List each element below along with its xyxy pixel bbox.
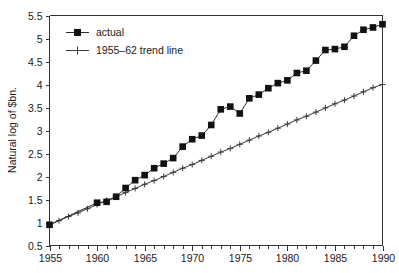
y-tick-label: 4: [37, 79, 43, 91]
y-tick-label: 5.5: [28, 10, 43, 22]
actual-data-point: [132, 177, 139, 184]
y-tick-label: 1.5: [28, 194, 43, 206]
actual-data-point: [160, 160, 167, 167]
trend-data-point: [237, 141, 243, 147]
trend-data-point: [199, 157, 205, 163]
actual-data-point: [170, 155, 177, 162]
trend-data-point: [284, 121, 290, 127]
trend-data-point: [351, 93, 357, 99]
y-tick-label: 3: [37, 125, 43, 137]
trend-data-point: [360, 89, 366, 95]
actual-data-point: [122, 185, 129, 192]
chart-figure: 0.511.522.533.544.555.5 1955196019651970…: [0, 0, 399, 273]
trend-data-point: [170, 169, 176, 175]
legend-label-trend: 1955–62 trend line: [96, 44, 183, 56]
actual-data-point: [198, 132, 205, 139]
actual-data-point: [351, 32, 358, 39]
x-tick-label: 1970: [181, 252, 205, 264]
y-tick-label: 4.5: [28, 56, 43, 68]
actual-data-point: [265, 85, 272, 92]
trend-data-point: [380, 82, 386, 88]
actual-data-point: [341, 43, 348, 50]
trend-data-point: [256, 133, 262, 139]
y-axis-title: Natural log of $bn.: [6, 87, 18, 173]
trend-data-point: [370, 85, 376, 91]
legend-marker-square-icon: [74, 29, 81, 36]
actual-data-point: [227, 103, 234, 110]
trend-data-point: [132, 185, 138, 191]
trend-data-point: [294, 117, 300, 123]
trend-data-point: [218, 149, 224, 155]
trend-data-point: [313, 109, 319, 115]
chart-legend: actual 1955–62 trend line: [66, 26, 183, 56]
trend-data-point: [161, 174, 167, 180]
actual-data-point: [179, 143, 186, 150]
legend-entry-actual: actual: [66, 26, 124, 38]
x-tick-label: 1985: [324, 252, 348, 264]
x-tick-label: 1955: [39, 252, 63, 264]
x-tick-label: 1960: [86, 252, 110, 264]
actual-data-point: [246, 95, 253, 102]
trend-data-point: [142, 181, 148, 187]
trend-data-point: [208, 153, 214, 159]
trend-data-point: [322, 105, 328, 111]
legend-entry-trend: 1955–62 trend line: [66, 44, 183, 56]
actual-data-point: [303, 67, 310, 74]
x-axis-ticks: 19551960196519701975198019851990: [39, 246, 396, 264]
x-tick-label: 1990: [372, 252, 396, 264]
actual-data-point: [217, 106, 224, 113]
actual-data-point: [141, 172, 148, 179]
legend-marker-plus-icon: [74, 47, 82, 55]
x-tick-label: 1980: [276, 252, 300, 264]
trend-data-point: [303, 113, 309, 119]
trend-data-point: [275, 125, 281, 131]
y-tick-label: 3.5: [28, 102, 43, 114]
y-tick-label: 0.5: [28, 240, 43, 252]
actual-data-point: [294, 70, 301, 77]
actual-data-point: [284, 77, 291, 84]
actual-data-point: [113, 193, 120, 200]
actual-data-point: [256, 91, 263, 98]
trend-data-point: [151, 178, 157, 184]
y-tick-label: 5: [37, 33, 43, 45]
trend-data-point: [341, 97, 347, 103]
y-tick-label: 2: [37, 171, 43, 183]
actual-data-point: [103, 199, 110, 206]
actual-data-point: [370, 24, 377, 31]
actual-data-point: [236, 110, 243, 117]
actual-data-point: [332, 46, 339, 53]
y-tick-label: 1: [37, 217, 43, 229]
actual-data-point: [360, 26, 367, 33]
trend-data-point: [265, 129, 271, 135]
trend-data-point: [246, 137, 252, 143]
actual-data-point: [94, 199, 101, 206]
actual-data-point: [46, 222, 53, 229]
trend-data-point: [180, 165, 186, 171]
actual-data-point: [322, 47, 329, 54]
x-tick-label: 1975: [229, 252, 253, 264]
actual-data-point: [208, 122, 215, 129]
trend-data-point: [227, 145, 233, 151]
x-tick-label: 1965: [134, 252, 158, 264]
legend-label-actual: actual: [96, 26, 124, 38]
actual-data-point: [275, 80, 282, 87]
trend-data-point: [189, 162, 195, 168]
y-axis-ticks: 0.511.522.533.544.555.5: [28, 10, 50, 252]
actual-data-point: [379, 21, 386, 28]
actual-data-point: [189, 136, 196, 143]
y-tick-label: 2.5: [28, 148, 43, 160]
actual-data-point: [151, 165, 158, 172]
actual-data-point: [313, 57, 320, 64]
trend-data-point: [332, 101, 338, 107]
chart-svg: 0.511.522.533.544.555.5 1955196019651970…: [0, 0, 399, 273]
